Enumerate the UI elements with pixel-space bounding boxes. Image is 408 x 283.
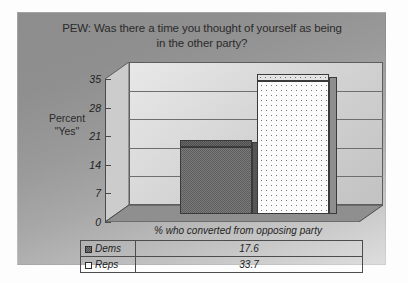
plot-area: 35 28 21 14 7 0 — [105, 62, 383, 222]
chart-title-line-2: in the other party? — [41, 36, 363, 51]
bar-dems[interactable] — [180, 62, 252, 214]
data-table: Dems 17.6 Reps 33.7 — [80, 240, 363, 273]
y-tick-0: 0 — [105, 222, 111, 223]
gridline-28 — [129, 91, 383, 92]
y-tick-21: 21 — [105, 136, 111, 137]
y-tick-label-21: 21 — [89, 130, 101, 142]
bar-reps-top — [257, 74, 329, 81]
y-tick-28: 28 — [105, 108, 111, 109]
y-axis-title-line-1: Percent — [32, 112, 102, 125]
y-tick-14: 14 — [105, 165, 111, 166]
dems-swatch-icon — [85, 246, 92, 253]
bar-dems-top — [180, 140, 252, 147]
y-axis-line — [105, 79, 106, 222]
bar-reps-front — [257, 81, 329, 214]
value-reps: 33.7 — [136, 257, 363, 273]
chart-title-line-1: PEW: Was there a time you thought of you… — [62, 22, 342, 34]
y-tick-label-7: 7 — [95, 187, 101, 199]
gridline-21 — [129, 119, 383, 120]
value-dems: 17.6 — [136, 241, 363, 257]
legend-item-reps[interactable]: Reps — [81, 257, 136, 273]
y-tick-label-0: 0 — [95, 216, 101, 228]
y-tick-label-14: 14 — [89, 159, 101, 171]
bar-reps[interactable] — [257, 62, 329, 214]
y-tick-label-28: 28 — [89, 102, 101, 114]
chart-page: PEW: Was there a time you thought of you… — [0, 0, 408, 283]
bar-reps-side — [329, 77, 337, 214]
reps-swatch-icon — [85, 262, 92, 269]
y-tick-7: 7 — [105, 193, 111, 194]
legend-label-dems: Dems — [95, 243, 121, 254]
y-tick-label-35: 35 — [89, 73, 101, 85]
table-row[interactable]: Reps 33.7 — [81, 257, 363, 273]
table-row[interactable]: Dems 17.6 — [81, 241, 363, 257]
left-side-wall — [105, 62, 129, 222]
legend-item-dems[interactable]: Dems — [81, 241, 136, 257]
x-axis-caption: % who converted from opposing party — [113, 225, 363, 236]
chart-title: PEW: Was there a time you thought of you… — [41, 21, 363, 51]
bar-dems-front — [180, 147, 252, 214]
legend-label-reps: Reps — [95, 259, 118, 270]
y-tick-35: 35 — [105, 79, 111, 80]
chart-panel: PEW: Was there a time you thought of you… — [17, 12, 386, 265]
